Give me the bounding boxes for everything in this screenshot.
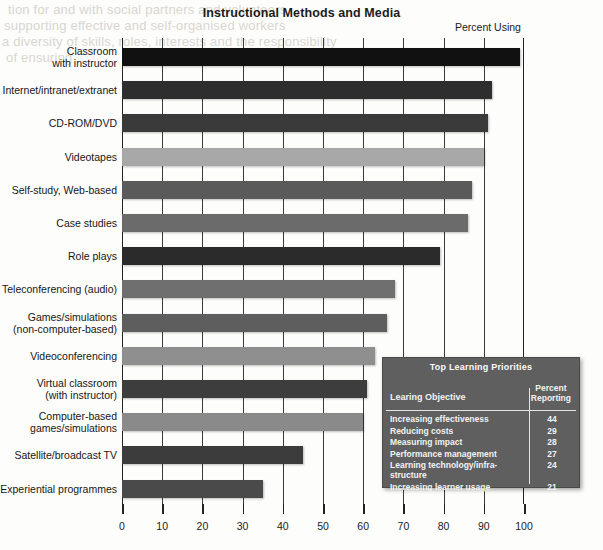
inset-table-row: Reducing costs29 — [383, 426, 579, 436]
bar — [122, 480, 263, 498]
inset-table-row: Increasing learner usage21 — [383, 482, 579, 492]
axis-tick-label: 50 — [317, 520, 329, 532]
axis-tick-label: 80 — [438, 520, 450, 532]
inset-row-value: 21 — [531, 482, 573, 492]
inset-table-row: Learning technology/infra- structure24 — [383, 460, 579, 480]
gridline — [162, 38, 163, 504]
axis-tick — [524, 504, 526, 514]
axis-tick — [243, 504, 245, 514]
inset-row-value: 27 — [531, 449, 573, 459]
gridline — [363, 38, 364, 504]
category-label: CD-ROM/DVD — [0, 117, 117, 129]
inset-table-row: Increasing effectiveness44 — [383, 414, 579, 424]
axis-tick-label: 70 — [398, 520, 410, 532]
bar — [122, 280, 395, 298]
category-label: Computer-based games/simulations — [0, 410, 117, 434]
axis-tick — [162, 504, 164, 514]
gridline — [202, 38, 203, 504]
inset-row-label: Measuring impact — [390, 437, 531, 447]
category-label: Satellite/broadcast TV — [0, 449, 117, 461]
category-label: Virtual classroom (with instructor) — [0, 377, 117, 401]
bar — [122, 446, 303, 464]
category-label: Case studies — [0, 217, 117, 229]
inset-row-label: Increasing learner usage — [390, 482, 531, 492]
inset-row-value: 29 — [531, 426, 573, 436]
axis-tick-label: 40 — [277, 520, 289, 532]
category-label: Experiential programmes — [0, 483, 117, 495]
bar — [122, 380, 367, 398]
inset-column-objective: Learing Objective — [390, 392, 466, 402]
axis-tick-label: 90 — [478, 520, 490, 532]
bar — [122, 347, 375, 365]
inset-table-body: Increasing effectiveness44Reducing costs… — [383, 414, 579, 493]
category-label: Teleconferencing (audio) — [0, 283, 117, 295]
inset-row-label: Performance management — [390, 449, 531, 459]
category-label: Videoconferencing — [0, 350, 117, 362]
axis-tick-label: 30 — [237, 520, 249, 532]
bar — [122, 214, 468, 232]
axis-tick — [323, 504, 325, 514]
axis-tick-label: 60 — [357, 520, 369, 532]
axis-tick-label: 0 — [119, 520, 125, 532]
axis-tick-label: 100 — [515, 520, 533, 532]
category-label: Videotapes — [0, 151, 117, 163]
axis-tick — [122, 504, 124, 514]
inset-column-percent: Percent Reporting — [531, 384, 571, 403]
gridline — [323, 38, 324, 504]
axis-tick-label: 10 — [156, 520, 168, 532]
inset-table-row: Performance management27 — [383, 449, 579, 459]
inset-row-value: 28 — [531, 437, 573, 447]
background-bleed-1: supporting effective and self-organised … — [4, 18, 286, 33]
gridline — [283, 38, 284, 504]
bar — [122, 114, 488, 132]
bar — [122, 48, 520, 66]
bar — [122, 314, 387, 332]
category-label: Classroom with instructor — [0, 45, 117, 69]
bar — [122, 181, 472, 199]
axis-tick — [283, 504, 285, 514]
axis-tick — [403, 504, 405, 514]
axis-tick — [444, 504, 446, 514]
inset-row-value: 24 — [531, 460, 573, 470]
bar — [122, 247, 440, 265]
inset-table-title: Top Learning Priorities — [383, 358, 579, 372]
category-label: Role plays — [0, 250, 117, 262]
axis-title: Percent Using — [455, 21, 521, 33]
inset-row-label: Reducing costs — [390, 426, 531, 436]
axis-tick — [202, 504, 204, 514]
category-label: Games/simulations (non-computer-based) — [0, 311, 117, 335]
axis-tick-label: 20 — [197, 520, 209, 532]
inset-row-label: Increasing effectiveness — [390, 414, 531, 424]
inset-row-label: Learning technology/infra- structure — [390, 460, 531, 480]
chart-page: tion for and with social partners and vo… — [0, 0, 603, 550]
inset-table-header: Learing Objective Percent Reporting — [383, 372, 579, 406]
inset-row-value: 44 — [531, 414, 573, 424]
inset-header-divider — [386, 410, 576, 411]
bar — [122, 413, 363, 431]
inset-table-row: Measuring impact28 — [383, 437, 579, 447]
inset-table: Top Learning Priorities Learing Objectiv… — [382, 357, 580, 488]
gridline — [243, 38, 244, 504]
bar — [122, 81, 492, 99]
axis-tick — [484, 504, 486, 514]
category-label: Internet/intranet/extranet — [0, 84, 117, 96]
chart-title: Instructional Methods and Media — [0, 6, 603, 20]
category-label: Self-study, Web-based — [0, 184, 117, 196]
bar — [122, 148, 484, 166]
axis-tick — [363, 504, 365, 514]
